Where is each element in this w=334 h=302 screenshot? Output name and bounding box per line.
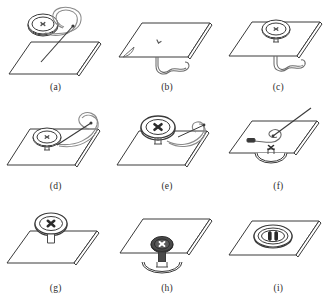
button-four-hole bbox=[262, 20, 290, 39]
bar-tack-right bbox=[275, 232, 278, 240]
panel-h-artwork bbox=[112, 205, 222, 283]
button-four-hole bbox=[33, 128, 61, 147]
figure-panel-b: (b) bbox=[111, 0, 222, 101]
panel-g-label: (g) bbox=[50, 284, 62, 294]
panel-b-artwork bbox=[112, 4, 222, 82]
thread-tab bbox=[247, 138, 255, 142]
panel-c-artwork bbox=[223, 4, 333, 82]
buttonhole-oval bbox=[254, 225, 292, 248]
button-cross-stitch bbox=[35, 213, 67, 236]
figure-panel-h: (h) bbox=[111, 201, 222, 302]
panel-d-artwork bbox=[1, 103, 111, 181]
panel-i-label: (i) bbox=[274, 284, 284, 294]
panel-c-label: (c) bbox=[273, 83, 284, 93]
panel-g-artwork bbox=[1, 205, 111, 283]
button-four-hole bbox=[28, 14, 58, 36]
panel-f-label: (f) bbox=[273, 182, 283, 192]
panel-e-label: (e) bbox=[161, 182, 172, 192]
thread-shank bbox=[158, 252, 165, 262]
panel-f-artwork bbox=[223, 103, 333, 181]
backing-button bbox=[142, 262, 182, 273]
figure-panel-f: (f) bbox=[223, 101, 334, 202]
thread-shank bbox=[47, 234, 54, 243]
figure-panel-c: (c) bbox=[223, 0, 334, 101]
panel-b-label: (b) bbox=[161, 83, 173, 93]
bar-tack-left bbox=[269, 232, 272, 240]
panel-a-label: (a) bbox=[50, 83, 61, 93]
figure-panel-g: (g) bbox=[0, 201, 111, 302]
figure-panel-d: (d) bbox=[0, 101, 111, 202]
figure-panel-grid: (a) bbox=[0, 0, 334, 302]
figure-panel-e: (e) bbox=[111, 101, 222, 202]
figure-panel-i: (i) bbox=[223, 201, 334, 302]
button-dark-cross bbox=[151, 237, 173, 253]
panel-e-artwork bbox=[112, 103, 222, 181]
button-cross-stitch bbox=[141, 116, 175, 140]
panel-d-label: (d) bbox=[50, 182, 62, 192]
figure-panel-a: (a) bbox=[0, 0, 111, 101]
panel-a-artwork bbox=[1, 4, 111, 82]
panel-i-artwork bbox=[223, 205, 333, 283]
panel-h-label: (h) bbox=[161, 284, 173, 294]
